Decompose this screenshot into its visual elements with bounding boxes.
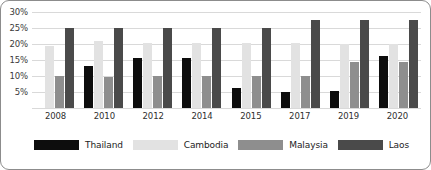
bar[interactable] [281, 92, 290, 108]
legend-entry[interactable]: Cambodia [133, 140, 229, 150]
y-axis-tick-label: 30% [1, 7, 28, 17]
plot-area [32, 12, 421, 108]
bar[interactable] [301, 76, 310, 108]
bar[interactable] [389, 44, 398, 108]
bar[interactable] [202, 76, 211, 108]
legend-entry[interactable]: Laos [338, 140, 409, 150]
bar[interactable] [242, 43, 251, 108]
bar-group [232, 12, 271, 108]
bar[interactable] [212, 28, 221, 108]
legend-swatch-icon [34, 140, 79, 150]
x-axis-tick-label: 2012 [133, 111, 174, 125]
y-axis-tick-label: 25% [1, 23, 28, 33]
legend-swatch-icon [338, 140, 383, 150]
bar[interactable] [55, 76, 64, 108]
x-axis-tick-label: 2014 [182, 111, 223, 125]
bar[interactable] [311, 20, 320, 108]
x-axis-tick-label: 2019 [328, 111, 369, 125]
bar[interactable] [114, 28, 123, 108]
legend-swatch-icon [133, 140, 178, 150]
bar-group [182, 12, 221, 108]
legend-label: Malaysia [289, 140, 328, 150]
bar[interactable] [104, 77, 113, 108]
bar[interactable] [360, 20, 369, 108]
y-axis-tick-label: 20% [1, 39, 28, 49]
bar[interactable] [153, 76, 162, 108]
bar-group [84, 12, 123, 108]
legend-swatch-icon [238, 140, 283, 150]
x-axis-baseline [32, 108, 421, 109]
bar[interactable] [340, 44, 349, 108]
bar-group [330, 12, 369, 108]
bar[interactable] [84, 66, 93, 108]
x-axis-tick-label: 2008 [35, 111, 76, 125]
x-axis-tick-label: 2015 [230, 111, 271, 125]
bar[interactable] [262, 28, 271, 108]
bar-group [133, 12, 172, 108]
bar[interactable] [409, 20, 418, 108]
x-axis: 20082010201220142015201720192020 [32, 111, 421, 125]
bar[interactable] [45, 46, 54, 108]
bar[interactable] [143, 43, 152, 108]
bar[interactable] [65, 28, 74, 108]
bar[interactable] [399, 62, 408, 108]
bar-group [379, 12, 418, 108]
legend-label: Thailand [85, 140, 123, 150]
y-axis-tick-label: 10% [1, 71, 28, 81]
legend-entry[interactable]: Thailand [34, 140, 123, 150]
bar-group [35, 12, 74, 108]
bar[interactable] [379, 56, 388, 108]
x-axis-tick-label: 2010 [84, 111, 125, 125]
bar[interactable] [192, 43, 201, 108]
y-axis: 30%25%20%15%10%5% [1, 12, 30, 108]
chart-legend: ThailandCambodiaMalaysiaLaos [34, 137, 409, 153]
y-axis-tick-label: 5% [1, 87, 28, 97]
bar[interactable] [94, 41, 103, 108]
bar[interactable] [232, 88, 241, 108]
x-axis-tick-label: 2017 [279, 111, 320, 125]
bar[interactable] [350, 62, 359, 108]
bar-group [281, 12, 320, 108]
x-axis-tick-label: 2020 [377, 111, 418, 125]
legend-label: Cambodia [184, 140, 229, 150]
bar-chart-figure: 30%25%20%15%10%5% 2008201020122014201520… [0, 0, 431, 170]
legend-label: Laos [389, 140, 409, 150]
bar[interactable] [182, 58, 191, 108]
bar[interactable] [133, 58, 142, 108]
legend-entry[interactable]: Malaysia [238, 140, 328, 150]
bar[interactable] [163, 28, 172, 108]
y-axis-tick-label: 15% [1, 55, 28, 65]
bar[interactable] [330, 91, 339, 108]
bar-groups [32, 12, 421, 108]
bar[interactable] [291, 43, 300, 108]
bar[interactable] [252, 76, 261, 108]
